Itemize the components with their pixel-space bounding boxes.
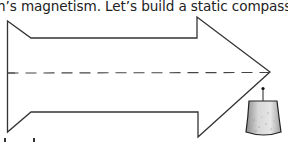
center-dashed-line	[8, 73, 271, 74]
hanging-weight-icon	[246, 87, 281, 135]
arrow-outline	[8, 17, 271, 137]
next-text-line-fragment	[2, 137, 42, 142]
arrow-diagram	[0, 0, 288, 142]
